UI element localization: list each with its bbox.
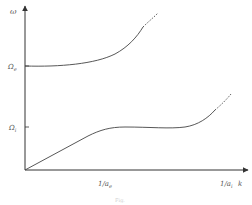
inv-ae-label: 1/ae: [98, 180, 112, 189]
omega-i-subscript: i: [15, 127, 17, 133]
lower-branch-dashed: [215, 94, 231, 110]
inv-ae-main: 1/a: [98, 180, 109, 188]
y-axis-label: ω: [10, 7, 17, 16]
omega-e-label: Ωe: [7, 63, 17, 72]
dispersion-chart: ω k Ωe Ωi 1/ae 1/ai Fig.: [0, 0, 252, 205]
figure-caption: Fig.: [115, 197, 125, 204]
inv-ai-subscript: i: [231, 183, 233, 189]
lower-branch-curve: [25, 110, 215, 170]
omega-e-subscript: e: [14, 66, 17, 72]
inv-ae-subscript: e: [109, 183, 112, 189]
inv-ai-main: 1/a: [220, 180, 231, 188]
x-axis-label: k: [238, 180, 242, 188]
inv-ai-label: 1/ai: [220, 180, 233, 189]
upper-branch-curve: [25, 27, 143, 66]
omega-i-label: Ωi: [8, 124, 17, 133]
upper-branch-dashed: [143, 13, 158, 27]
